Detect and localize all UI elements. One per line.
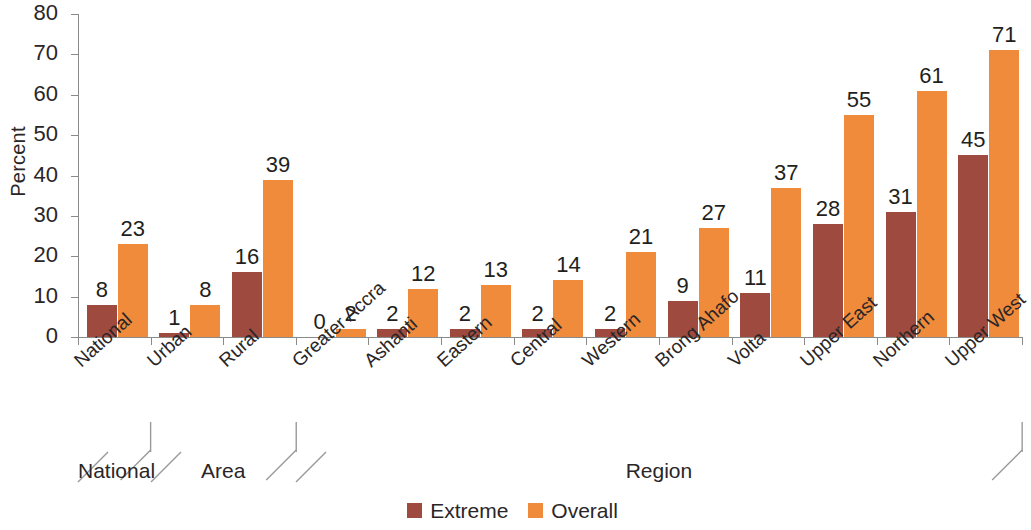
bar-group: 02 (296, 14, 369, 337)
y-tick-mark (71, 54, 78, 55)
y-tick-mark (71, 337, 78, 338)
bar-group: 1639 (223, 14, 296, 337)
x-tick-mark (659, 337, 660, 345)
bar-group: 213 (441, 14, 514, 337)
y-tick-label: 10 (14, 285, 58, 307)
legend-swatch-icon (407, 503, 422, 518)
plot-area: 8231816390221221321422192711372855316145… (78, 14, 1022, 337)
legend-item[interactable]: Extreme (407, 500, 508, 521)
x-tick-mark (732, 337, 733, 345)
x-tick-mark (151, 337, 152, 345)
bar-overall[interactable] (263, 180, 293, 337)
y-tick-label: 50 (14, 123, 58, 145)
y-tick-label: 80 (14, 2, 58, 24)
y-tick-label: 70 (14, 42, 58, 64)
y-tick-label: 40 (14, 164, 58, 186)
bar-overall[interactable] (917, 91, 947, 337)
bar-overall[interactable] (771, 188, 801, 337)
bar-group: 18 (151, 14, 224, 337)
x-tick-mark (877, 337, 878, 345)
bar-group: 927 (659, 14, 732, 337)
group-title-national: National (78, 460, 151, 482)
y-tick-mark (71, 14, 78, 15)
x-tick-mark (949, 337, 950, 345)
x-tick-mark (514, 337, 515, 345)
y-tick-label: 0 (14, 325, 58, 347)
y-tick-mark (71, 216, 78, 217)
chart-legend: ExtremeOverall (0, 500, 1025, 521)
bar-group: 3161 (877, 14, 950, 337)
y-tick-mark (71, 176, 78, 177)
x-tick-mark (1022, 337, 1023, 345)
y-tick-label: 20 (14, 244, 58, 266)
y-tick-mark (71, 95, 78, 96)
y-tick-mark (71, 135, 78, 136)
bar-overall[interactable] (190, 305, 220, 337)
bar-value-label: 71 (974, 24, 1031, 46)
x-tick-mark (368, 337, 369, 345)
legend-item[interactable]: Overall (528, 500, 618, 521)
legend-label: Extreme (430, 500, 508, 521)
bar-group: 221 (586, 14, 659, 337)
legend-swatch-icon (528, 503, 543, 518)
bar-group: 214 (514, 14, 587, 337)
x-tick-mark (296, 337, 297, 345)
legend-label: Overall (551, 500, 618, 521)
bar-extreme[interactable] (958, 155, 988, 337)
x-tick-mark (223, 337, 224, 345)
x-tick-mark (441, 337, 442, 345)
y-tick-mark (71, 256, 78, 257)
group-title-area: Area (151, 460, 296, 482)
x-tick-mark (804, 337, 805, 345)
bar-group: 2855 (804, 14, 877, 337)
bar-group: 1137 (732, 14, 805, 337)
bar-group: 4571 (949, 14, 1022, 337)
y-tick-label: 30 (14, 204, 58, 226)
x-tick-mark (78, 337, 79, 345)
x-tick-mark (586, 337, 587, 345)
bar-group: 823 (78, 14, 151, 337)
group-title-region: Region (296, 460, 1022, 482)
y-tick-label: 60 (14, 83, 58, 105)
